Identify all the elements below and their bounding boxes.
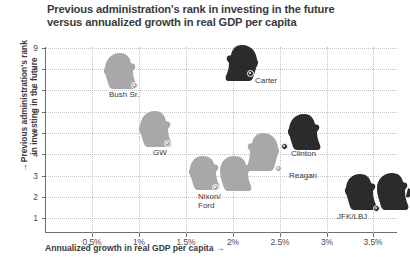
gridline-x-1.5: [186, 47, 188, 233]
x-tick-label-2: 2%: [216, 237, 250, 247]
y-tick-9: [42, 48, 46, 49]
gridline-y-8: [45, 69, 397, 71]
x-tick-label-0.5: 0.5%: [75, 237, 109, 247]
datapoint-marker-carter[interactable]: [247, 70, 254, 77]
y-axis-line: [45, 47, 46, 233]
y-tick-label-1: 1: [22, 213, 38, 223]
chart-title-line-2: versus annualized growth in real GDP per…: [47, 16, 387, 29]
datapoint-label-reagan: Reagan: [289, 171, 317, 180]
datapoint-label-clinton: Clinton: [291, 149, 316, 158]
x-tick-label-1: 1%: [122, 237, 156, 247]
y-tick-3: [42, 176, 46, 177]
datapoint-label-jfk-lbj: JFK/LBJ: [337, 212, 367, 221]
gridline-y-6: [45, 112, 397, 114]
y-tick-1: [42, 218, 46, 219]
datapoint-label-carter: Carter: [255, 76, 277, 85]
datapoint-marker-bush-sr[interactable]: [131, 82, 138, 89]
chart-title: Previous administration's rank in invest…: [47, 3, 387, 29]
y-tick-4: [42, 154, 46, 155]
y-tick-label-8: 8: [22, 64, 38, 74]
x-tick-1.5: [186, 233, 187, 237]
x-tick-label-1.5: 1.5%: [169, 237, 203, 247]
silhouette-carter: [223, 44, 259, 82]
silhouette-clinton: [287, 113, 323, 151]
y-tick-8: [42, 69, 46, 70]
x-tick-2: [233, 233, 234, 237]
y-tick-label-9: 9: [22, 43, 38, 53]
x-tick-label-3.5: 3.5%: [356, 237, 390, 247]
datapoint-marker-clinton[interactable]: [281, 143, 288, 150]
y-tick-7: [42, 90, 46, 91]
datapoint-marker-reagan[interactable]: [275, 165, 282, 172]
x-tick-label-3: 3%: [310, 237, 344, 247]
datapoint-marker-jfk-lbj[interactable]: [373, 205, 380, 212]
datapoint-label-gw: GW: [153, 148, 167, 157]
y-tick-label-2: 2: [22, 192, 38, 202]
y-tick-label-3: 3: [22, 171, 38, 181]
datapoint-marker-gw[interactable]: [164, 140, 171, 147]
y-tick-6: [42, 112, 46, 113]
x-tick-3: [327, 233, 328, 237]
y-tick-2: [42, 197, 46, 198]
datapoint-label-nixon-ford-line-1: Nixon/: [198, 192, 221, 201]
gridline-y-7: [45, 90, 397, 92]
x-tick-0.5: [92, 233, 93, 237]
y-tick-label-7: 7: [22, 85, 38, 95]
datapoint-label-nixon-ford-line-2: Ford: [198, 201, 214, 210]
plot-area: 9 8 7 6 5 4 3 2 1 0.5% 1% 1.5% 2% 2.5% 3…: [45, 47, 397, 233]
datapoint-label-nixon-ford: Nixon/ Ford: [198, 192, 221, 210]
x-axis-line: [45, 232, 397, 233]
y-tick-label-5: 5: [22, 128, 38, 138]
x-tick-label-2.5: 2.5%: [263, 237, 297, 247]
gridline-y-9: [45, 48, 397, 50]
gridline-x-2.5: [280, 47, 282, 233]
x-tick-3.5: [373, 233, 374, 237]
silhouette-nixon-ford: [186, 154, 252, 194]
x-tick-2.5: [280, 233, 281, 237]
gridline-x-0.5: [92, 47, 94, 233]
x-tick-1: [139, 233, 140, 237]
chart-title-line-1: Previous administration's rank in invest…: [47, 3, 335, 15]
datapoint-marker-nixon-ford[interactable]: [212, 184, 219, 191]
y-tick-label-4: 4: [22, 149, 38, 159]
gridline-x-3: [327, 47, 329, 233]
gridline-y-5: [45, 133, 397, 135]
y-axis-title-line-1: Previous administration's rank: [19, 40, 29, 162]
datapoint-label-bush-sr: Bush Sr.: [109, 90, 139, 99]
y-tick-label-6: 6: [22, 107, 38, 117]
y-tick-5: [42, 133, 46, 134]
